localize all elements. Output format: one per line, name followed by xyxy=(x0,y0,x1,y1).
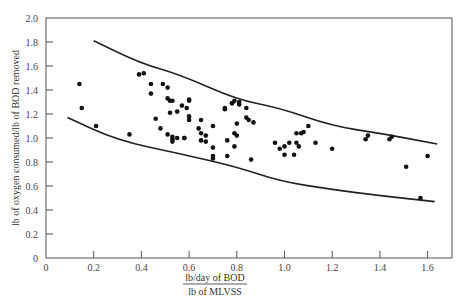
data-point xyxy=(230,101,235,106)
data-point xyxy=(251,120,256,125)
data-point xyxy=(292,153,297,158)
data-point xyxy=(277,147,282,152)
x-tick-label: 1.6 xyxy=(421,262,434,273)
data-point xyxy=(187,97,192,102)
data-point xyxy=(282,144,287,149)
data-point xyxy=(211,124,216,129)
data-point xyxy=(158,126,163,131)
x-tick-label: 1.2 xyxy=(326,262,339,273)
data-point xyxy=(141,71,146,76)
y-tick-label: 0.4 xyxy=(26,205,39,216)
data-point xyxy=(211,156,216,161)
x-tick-label: 1.0 xyxy=(278,262,291,273)
data-point xyxy=(165,85,170,90)
x-axis-label-denominator: lb of MLVSS xyxy=(188,286,242,297)
data-point xyxy=(287,141,292,146)
data-point xyxy=(232,131,237,136)
data-point xyxy=(184,106,189,111)
y-tick-label: 0.2 xyxy=(26,229,39,240)
data-point xyxy=(246,118,251,123)
data-point xyxy=(170,139,175,144)
data-point xyxy=(199,138,204,143)
data-point xyxy=(165,132,170,137)
data-point xyxy=(175,109,180,114)
data-point xyxy=(203,139,208,144)
y-tick-label: 1.8 xyxy=(26,37,39,48)
data-point xyxy=(199,118,204,123)
data-point xyxy=(404,165,409,170)
data-point xyxy=(235,121,240,126)
data-point xyxy=(79,106,84,111)
data-point xyxy=(225,154,230,159)
data-point xyxy=(149,91,154,96)
x-tick-label: 0.4 xyxy=(135,262,148,273)
data-point xyxy=(418,196,423,201)
data-point xyxy=(149,82,154,87)
data-point xyxy=(282,153,287,158)
data-point xyxy=(180,103,185,108)
data-points xyxy=(77,71,430,200)
data-point xyxy=(294,131,299,136)
data-point xyxy=(301,130,306,135)
data-point xyxy=(199,131,204,136)
data-point xyxy=(306,124,311,129)
data-point xyxy=(366,133,371,138)
data-point xyxy=(249,157,254,162)
data-point xyxy=(297,144,302,149)
data-point xyxy=(211,145,216,150)
data-point xyxy=(137,72,142,77)
data-point xyxy=(313,141,318,146)
y-tick-label: 2.0 xyxy=(26,13,39,24)
y-tick-label: 1.6 xyxy=(26,61,39,72)
data-point xyxy=(127,132,132,137)
data-point xyxy=(330,147,335,152)
data-point xyxy=(161,82,166,87)
data-point xyxy=(273,141,278,146)
upper-bound-curve xyxy=(94,41,437,144)
data-point xyxy=(244,106,249,111)
data-point xyxy=(425,154,430,159)
data-point xyxy=(232,144,237,149)
x-tick-label: 1.4 xyxy=(374,262,387,273)
x-tick-label: 0.2 xyxy=(87,262,100,273)
y-tick-label: 0.8 xyxy=(26,157,39,168)
data-point xyxy=(182,136,187,141)
y-tick-label: 0.6 xyxy=(26,181,39,192)
x-axis-ticks: 00.20.40.60.81.01.21.41.6 xyxy=(44,251,434,273)
y-tick-label: 1.0 xyxy=(26,133,39,144)
data-point xyxy=(223,106,228,111)
data-point xyxy=(187,118,192,123)
data-point xyxy=(203,133,208,138)
x-axis-label-numerator: lb/day of BOD xyxy=(185,272,244,283)
data-point xyxy=(390,135,395,140)
y-axis-ticks: 00.20.40.60.81.01.21.41.61.82.0 xyxy=(26,13,54,264)
data-point xyxy=(153,117,158,122)
data-point xyxy=(168,111,173,116)
y-tick-label: 1.4 xyxy=(26,85,39,96)
y-tick-label: 0 xyxy=(33,253,38,264)
scatter-chart: 00.20.40.60.81.01.21.41.61.82.0 00.20.40… xyxy=(0,0,463,301)
data-point xyxy=(77,82,82,87)
x-tick-label: 0 xyxy=(44,262,49,273)
data-point xyxy=(237,102,242,107)
data-point xyxy=(170,99,175,104)
data-point xyxy=(94,124,99,129)
data-point xyxy=(175,136,180,141)
data-point xyxy=(225,138,230,143)
y-axis-label: lb of oxygen consumed/lb of BOD removed xyxy=(10,50,21,226)
data-point xyxy=(196,126,201,131)
y-tick-label: 1.2 xyxy=(26,109,39,120)
